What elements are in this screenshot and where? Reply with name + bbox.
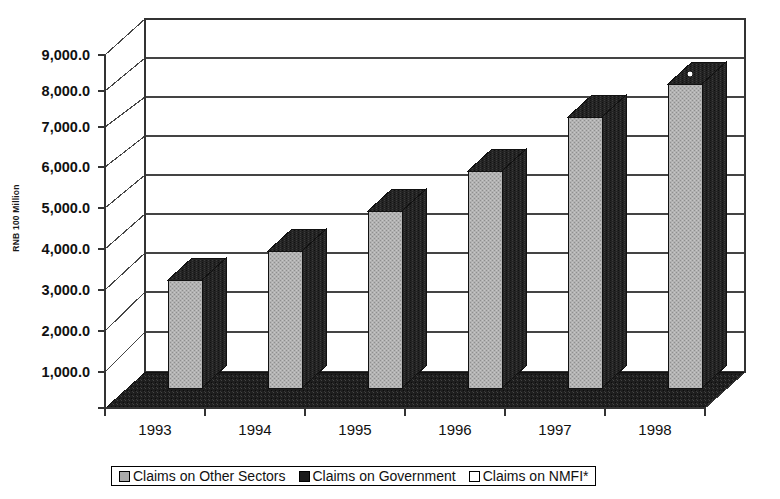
chart-legend: Claims on Other Sectors Claims on Govern… xyxy=(111,466,596,486)
x-tick-label-1997: 1997 xyxy=(510,421,600,438)
x-tick-label-1994: 1994 xyxy=(210,421,300,438)
y-axis-line xyxy=(98,55,105,408)
legend-item-nmfi[interactable]: Claims on NMFI* xyxy=(469,469,589,483)
legend-swatch-icon xyxy=(299,471,310,482)
chart-back-wall xyxy=(145,19,745,372)
legend-swatch-icon xyxy=(469,471,480,482)
legend-label: Claims on Government xyxy=(313,469,456,483)
bar-1996[interactable] xyxy=(468,149,526,388)
legend-label: Claims on NMFI* xyxy=(483,469,589,483)
x-tick-label-1998: 1998 xyxy=(610,421,700,438)
legend-swatch-icon xyxy=(119,471,130,482)
x-tick-label-1993: 1993 xyxy=(110,421,200,438)
chart-container: RNB 100 Million 9,000.0 8,000.0 7,000.0 … xyxy=(0,0,780,499)
x-axis-line xyxy=(105,408,705,416)
bar-1994[interactable] xyxy=(268,229,326,388)
bar-1998[interactable] xyxy=(668,62,726,388)
x-tick-label-1996: 1996 xyxy=(410,421,500,438)
x-tick-label-1995: 1995 xyxy=(310,421,400,438)
legend-item-other-sectors[interactable]: Claims on Other Sectors xyxy=(119,469,286,483)
chart-left-wall xyxy=(105,19,145,408)
bar-1993[interactable] xyxy=(168,258,226,388)
legend-label: Claims on Other Sectors xyxy=(133,469,286,483)
legend-item-government[interactable]: Claims on Government xyxy=(299,469,456,483)
scan-artifact xyxy=(687,71,692,76)
bar-1997[interactable] xyxy=(568,95,626,388)
bar-1995[interactable] xyxy=(368,189,426,388)
